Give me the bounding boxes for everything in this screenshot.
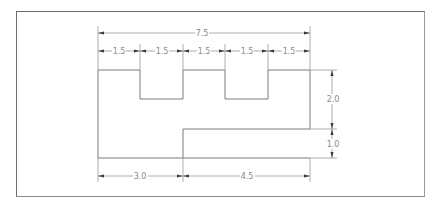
label-top-segment-1: 1.5 <box>113 47 126 56</box>
arrowhead-right-icon <box>304 32 310 35</box>
extension-lines <box>98 26 337 182</box>
label-top-segment-4: 1.5 <box>241 47 254 56</box>
dimension-overall-width: 7.5 <box>98 28 310 38</box>
label-overall-width: 7.5 <box>196 29 209 38</box>
technical-drawing: 7.5 1.5 1.5 1.5 1.5 1.5 2.0 <box>0 0 442 205</box>
part-outline <box>98 70 310 158</box>
dimension-right-heights: 2.0 1.0 <box>325 70 340 158</box>
part-profile <box>98 70 310 158</box>
dimension-bottom-segments: 3.0 4.5 <box>98 171 310 181</box>
label-top-segment-3: 1.5 <box>198 47 211 56</box>
label-top-segment-2: 1.5 <box>156 47 169 56</box>
label-height-lower: 1.0 <box>327 140 340 149</box>
label-bottom-right: 4.5 <box>241 172 254 181</box>
label-height-upper: 2.0 <box>327 95 340 104</box>
arrowhead-left-icon <box>98 32 104 35</box>
label-top-segment-5: 1.5 <box>283 47 296 56</box>
label-bottom-left: 3.0 <box>134 172 147 181</box>
dimension-top-segments: 1.5 1.5 1.5 1.5 1.5 <box>98 46 310 56</box>
